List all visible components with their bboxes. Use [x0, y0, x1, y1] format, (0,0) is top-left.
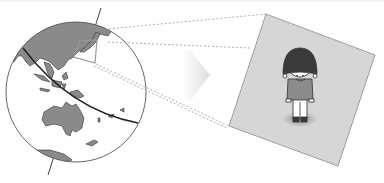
- arrow-right-icon: [182, 50, 210, 101]
- globe: [6, 20, 146, 164]
- zoom-panel: [229, 14, 375, 166]
- child-left-shoe: [293, 117, 299, 122]
- illustration-svg: [0, 0, 384, 183]
- illustration-canvas: [0, 0, 384, 183]
- child-right-shoe: [301, 117, 307, 122]
- child-shirt: [287, 79, 313, 100]
